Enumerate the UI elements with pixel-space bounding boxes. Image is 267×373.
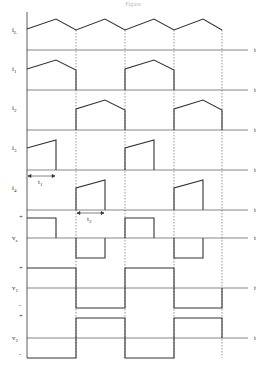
svg-text:t: t	[254, 126, 256, 134]
label-i4: i4	[12, 184, 17, 193]
interval-t1	[28, 175, 55, 178]
svg-text:t: t	[254, 206, 256, 214]
t-labels: t t t t t t t t	[254, 46, 256, 342]
svg-text:t: t	[254, 46, 256, 54]
label-t2: t2	[87, 215, 92, 224]
svg-text:t: t	[254, 284, 256, 292]
waveform-i4	[76, 180, 105, 210]
label-v2: v2	[12, 334, 19, 343]
label-i2: i2	[12, 104, 17, 113]
label-iL: iL	[12, 26, 17, 35]
label-i1: i1	[12, 65, 17, 74]
plus-vs: +	[19, 213, 23, 221]
svg-text:t: t	[254, 166, 256, 174]
waveform-i1	[27, 60, 76, 90]
signal-labels: iL i1 i2 i3 i4 + vs + v1 - + v2 -	[12, 26, 23, 358]
label-t1: t1	[38, 178, 43, 187]
label-vs: vs	[12, 234, 18, 243]
waveform-vs	[27, 218, 56, 238]
switch-lines	[76, 30, 222, 358]
svg-text:t: t	[254, 334, 256, 342]
waveform-diagram: Figure t t t t t t t t iL i1 i2 i3 i4 +	[0, 0, 267, 373]
plus-v2: +	[19, 312, 23, 320]
plus-v1: +	[19, 264, 23, 272]
waveform-iL	[27, 19, 222, 30]
label-i3: i3	[12, 144, 17, 153]
svg-text:t: t	[254, 234, 256, 242]
svg-text:t: t	[254, 86, 256, 94]
interval-t2	[77, 212, 104, 215]
minus-v2: -	[19, 350, 22, 358]
time-axes	[27, 50, 248, 338]
label-v1: v1	[12, 284, 19, 293]
minus-v1: -	[19, 301, 22, 309]
figure-title: Figure	[125, 1, 141, 7]
waveform-i2	[76, 100, 125, 130]
waveform-i3	[27, 140, 56, 170]
